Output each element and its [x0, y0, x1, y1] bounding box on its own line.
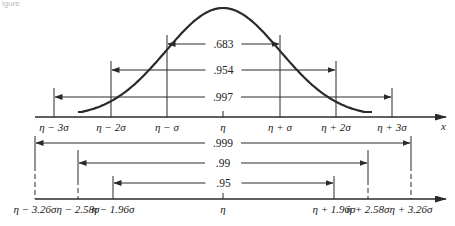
tick-label: η + 3.26σ	[389, 203, 433, 215]
upper-axis-group: η − 3ση − 2ση − σηη + ση + 2ση + 3σ.683.…	[35, 8, 446, 133]
tick-label: η − 3.26σ	[13, 203, 57, 215]
probability-label: .954	[213, 64, 233, 76]
tick-label: η + σ	[268, 121, 292, 133]
diagram-canvas: igure η − 3ση − 2ση − σηη + ση + 2ση + 3…	[0, 0, 455, 226]
tick-label: η + 2σ	[321, 121, 351, 133]
tick-label: η + 3σ	[377, 121, 407, 133]
probability-label: .999	[213, 137, 233, 149]
tick-label: η − 2σ	[96, 121, 126, 133]
tick-label: η	[220, 121, 225, 133]
tick-label: η − 1.96σ	[91, 203, 135, 215]
probability-label: .99	[216, 157, 231, 169]
tick-label: η − 3σ	[39, 121, 69, 133]
lower-axis-group: η − 3.26ση − 2.58ση − 1.96σηη + 1.96ση +…	[13, 136, 446, 215]
probability-label: .683	[213, 38, 233, 50]
probability-label: .997	[213, 91, 233, 103]
tick-label: η	[220, 203, 225, 215]
probability-label: .95	[216, 177, 231, 189]
normal-distribution-figure: igure η − 3ση − 2ση − σηη + ση + 2ση + 3…	[0, 0, 455, 226]
tick-label: η − σ	[155, 121, 179, 133]
clipped-caption-fragment: igure	[2, 0, 20, 8]
x-axis-label: x	[440, 120, 446, 132]
tick-label: η + 2.58σ	[346, 203, 390, 215]
